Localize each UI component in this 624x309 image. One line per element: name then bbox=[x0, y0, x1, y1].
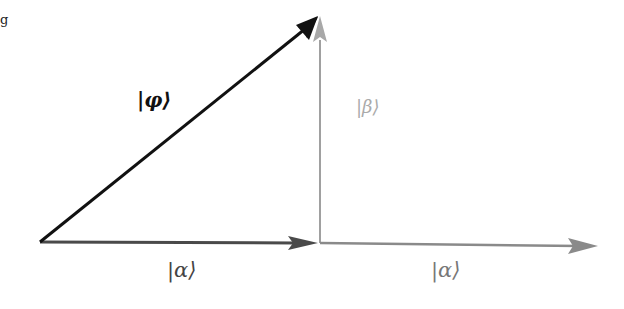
beta-vector bbox=[313, 16, 327, 243]
phi-vector bbox=[40, 16, 318, 242]
alpha-right-label: |α⟩ bbox=[431, 258, 460, 282]
alpha-right-vector bbox=[320, 238, 598, 254]
beta-label: |β⟩ bbox=[356, 96, 380, 117]
alpha-left-vector bbox=[40, 236, 318, 250]
vector-diagram bbox=[0, 0, 624, 309]
alpha-left-label: |α⟩ bbox=[167, 258, 196, 282]
phi-label: |φ⟩ bbox=[137, 88, 172, 112]
